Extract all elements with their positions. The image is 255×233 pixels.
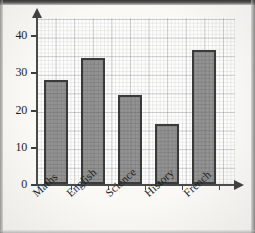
bar-maths bbox=[44, 80, 68, 184]
bar-english bbox=[81, 58, 105, 184]
y-axis-arrow-icon bbox=[32, 8, 42, 18]
x-tick-5 bbox=[219, 186, 220, 190]
scan-edge-top bbox=[0, 0, 255, 5]
y-tick-label-40: 40 bbox=[1, 29, 27, 41]
y-tick-30 bbox=[31, 72, 37, 74]
bar-chart-screenshot: 40 30 20 10 0 Maths English Science Hist… bbox=[0, 0, 255, 233]
y-tick-20 bbox=[31, 110, 37, 112]
scan-edge-left bbox=[0, 0, 3, 233]
y-tick-label-0: 0 bbox=[1, 178, 27, 190]
y-tick-40 bbox=[31, 35, 37, 37]
y-tick-label-20: 20 bbox=[1, 104, 27, 116]
scan-edge-bottom bbox=[0, 230, 255, 233]
bar-french bbox=[192, 50, 216, 184]
x-axis-arrow-icon bbox=[234, 180, 244, 190]
y-axis-line bbox=[36, 16, 38, 186]
y-tick-label-30: 30 bbox=[1, 66, 27, 78]
y-tick-10 bbox=[31, 147, 37, 149]
x-axis-line bbox=[36, 184, 236, 186]
y-tick-label-10: 10 bbox=[1, 141, 27, 153]
scan-edge-right bbox=[251, 0, 255, 233]
